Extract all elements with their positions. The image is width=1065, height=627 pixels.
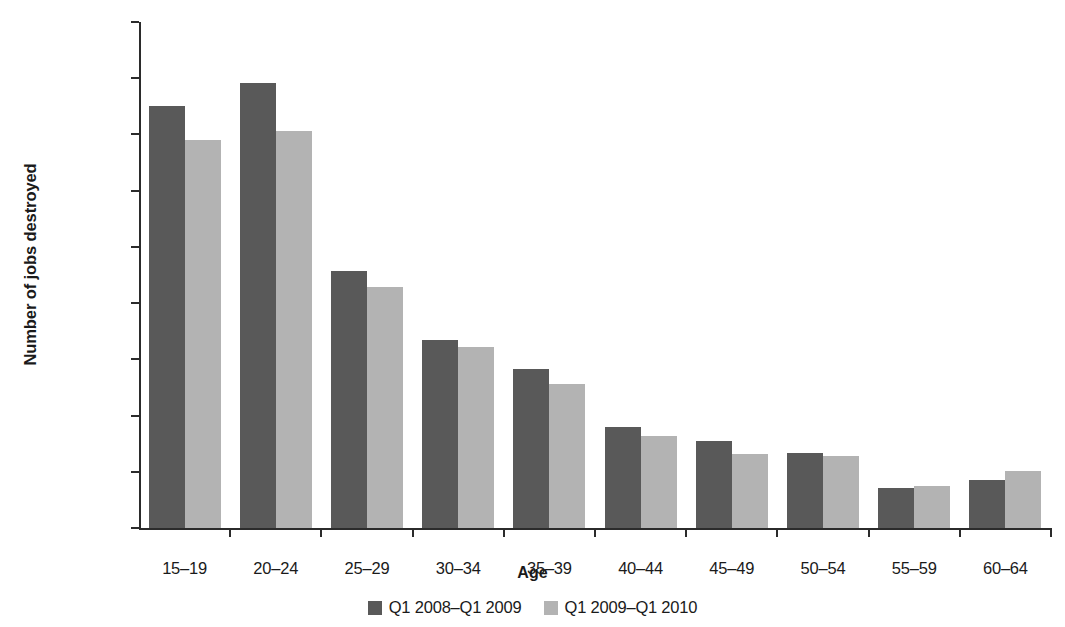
bar-series1[interactable] <box>878 488 914 528</box>
x-axis-tick <box>229 528 231 537</box>
x-axis-tick <box>320 528 322 537</box>
bar-series2[interactable] <box>276 131 312 528</box>
bar-series1[interactable] <box>331 271 367 528</box>
x-axis-tick <box>868 528 870 537</box>
bar-group <box>422 22 494 528</box>
bar-series1[interactable] <box>149 106 185 528</box>
x-axis-tick <box>776 528 778 537</box>
bar-group <box>605 22 677 528</box>
x-axis-tick <box>685 528 687 537</box>
bar-group <box>969 22 1041 528</box>
legend-label: Q1 2009–Q1 2010 <box>565 598 698 617</box>
y-axis-tick <box>131 77 139 79</box>
bar-series1[interactable] <box>513 369 549 528</box>
bar-series2[interactable] <box>458 347 494 528</box>
legend-swatch-icon <box>544 601 558 615</box>
bar-series1[interactable] <box>787 453 823 528</box>
y-axis-tick <box>131 302 139 304</box>
chart-legend: Q1 2008–Q1 2009Q1 2009–Q1 2010 <box>0 598 1065 617</box>
bar-group <box>787 22 859 528</box>
legend-swatch-icon <box>368 601 382 615</box>
y-axis-tick <box>131 415 139 417</box>
x-axis-tick <box>412 528 414 537</box>
x-axis-tick <box>1050 528 1052 537</box>
legend-item[interactable]: Q1 2009–Q1 2010 <box>544 598 698 617</box>
bar-series2[interactable] <box>1005 471 1041 528</box>
bar-series1[interactable] <box>696 441 732 528</box>
legend-item[interactable]: Q1 2008–Q1 2009 <box>368 598 522 617</box>
bar-series2[interactable] <box>732 454 768 528</box>
x-axis-title: Age <box>0 564 1065 582</box>
legend-label: Q1 2008–Q1 2009 <box>389 598 522 617</box>
bar-series1[interactable] <box>422 340 458 528</box>
y-axis-tick <box>131 527 139 529</box>
bar-group <box>696 22 768 528</box>
x-axis-tick <box>959 528 961 537</box>
y-axis-tick <box>131 133 139 135</box>
bar-series2[interactable] <box>823 456 859 528</box>
y-axis-tick <box>131 471 139 473</box>
bar-series2[interactable] <box>641 436 677 528</box>
bar-chart-figure: Number of jobs destroyed 0100,000200,000… <box>0 0 1065 627</box>
bar-series2[interactable] <box>914 486 950 528</box>
bar-series1[interactable] <box>240 83 276 528</box>
y-axis-tick <box>131 21 139 23</box>
y-axis-tick <box>131 190 139 192</box>
plot-area: 0100,000200,000300,000400,000500,000600,… <box>139 22 1051 528</box>
bar-group <box>149 22 221 528</box>
bar-group <box>878 22 950 528</box>
y-axis-title: Number of jobs destroyed <box>21 100 40 430</box>
y-axis-tick <box>131 358 139 360</box>
y-axis-tick <box>131 246 139 248</box>
x-axis-tick <box>594 528 596 537</box>
bar-series2[interactable] <box>549 384 585 528</box>
bar-series1[interactable] <box>605 427 641 528</box>
bar-series2[interactable] <box>367 287 403 528</box>
bar-series2[interactable] <box>185 140 221 528</box>
bar-group <box>240 22 312 528</box>
bar-series1[interactable] <box>969 480 1005 528</box>
bar-group <box>331 22 403 528</box>
y-axis-line <box>139 22 141 529</box>
x-axis-tick <box>503 528 505 537</box>
bar-group <box>513 22 585 528</box>
